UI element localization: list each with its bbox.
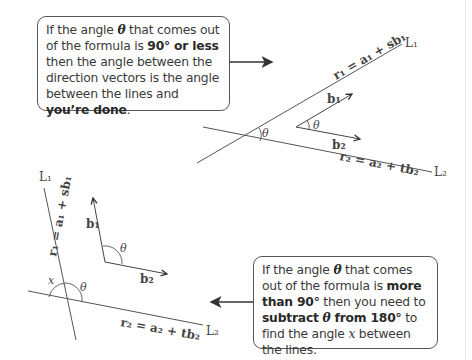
- note-emphasis: you’re done: [46, 103, 127, 117]
- top-theta-label: θ: [262, 127, 269, 140]
- top-vector-b1: [296, 94, 352, 127]
- note-emphasis: subtract: [262, 311, 319, 325]
- bottom-vector-b2: [105, 262, 167, 274]
- note-text: If the angle: [262, 263, 333, 277]
- top-b1-label: b₁: [327, 92, 341, 106]
- bottom-b1-label: b₁: [86, 217, 100, 231]
- bottom-line-l2: [28, 291, 203, 325]
- top-l2-label: L₂: [434, 165, 447, 179]
- top-l2-equation: r₂ = a₂ + tb₂: [338, 149, 420, 178]
- top-angle-arc: [259, 128, 261, 141]
- bottom-vector-theta-label: θ: [120, 242, 127, 255]
- top-explanation-note: If the angle θ that comes out of the for…: [37, 16, 230, 111]
- top-vector-b2: [296, 127, 360, 139]
- note-text: .: [127, 103, 131, 117]
- note-emphasis: from 180°: [330, 311, 401, 325]
- note-text: If the angle: [46, 23, 117, 37]
- bottom-b2-label: b₂: [140, 272, 154, 286]
- top-diagram: [197, 44, 432, 172]
- bottom-l1-label: L₁: [39, 170, 52, 184]
- top-l1-equation: r₁ = a₁ + sb₁: [331, 30, 409, 83]
- top-l1-label: L₁: [405, 36, 418, 50]
- top-vector-angle-arc: [307, 120, 309, 130]
- bottom-explanation-note: If the angle θ that comes out of the for…: [253, 256, 438, 349]
- bottom-x-label: x: [48, 274, 55, 287]
- note-text: then you need to: [320, 295, 426, 309]
- note-emphasis: 90° or less: [147, 39, 218, 53]
- top-vector-theta-label: θ: [313, 119, 320, 132]
- top-b2-label: b₂: [332, 138, 346, 152]
- bottom-theta-label: θ: [80, 281, 87, 294]
- note-text: then the angle between the direction vec…: [46, 55, 219, 101]
- bottom-l2-equation: r₂ = a₂ + tb₂: [119, 315, 201, 343]
- bottom-l2-label: L₂: [206, 324, 219, 338]
